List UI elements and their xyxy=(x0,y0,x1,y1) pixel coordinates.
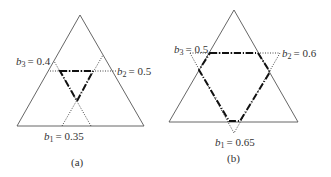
label-b2-a: b2= 0.5 xyxy=(117,65,152,79)
figure-canvas: b3= 0.4 b2= 0.5 b1= 0.35 (a) b3= 0.5 b2=… xyxy=(0,0,331,177)
label-b1-a: b1= 0.35 xyxy=(44,130,84,144)
label-b1-b: b1= 0.65 xyxy=(215,136,255,150)
label-b2-b: b2= 0.6 xyxy=(282,47,317,61)
label-b3-b: b3= 0.5 xyxy=(174,43,209,57)
feasible-region-a xyxy=(60,71,93,101)
simplex-triangle-b xyxy=(169,10,298,122)
panel-a: b3= 0.4 b2= 0.5 b1= 0.35 (a) xyxy=(16,15,152,169)
caption-b: (b) xyxy=(227,152,240,165)
panel-b: b3= 0.5 b2= 0.6 b1= 0.65 (b) xyxy=(169,10,317,165)
feasible-region-b xyxy=(199,53,270,121)
caption-a: (a) xyxy=(71,156,84,169)
label-b3-a: b3= 0.4 xyxy=(16,55,51,69)
b1-line-left-a xyxy=(62,55,103,126)
